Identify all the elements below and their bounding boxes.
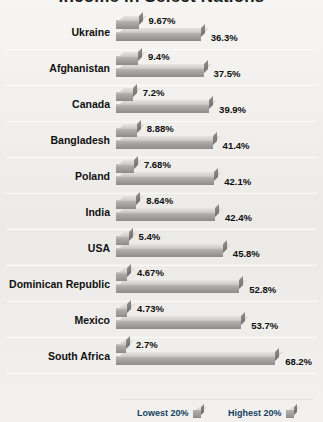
bar-lowest[interactable] bbox=[116, 164, 134, 173]
legend-label-lowest: Lowest 20% bbox=[137, 408, 189, 418]
bar-value-highest: 52.8% bbox=[249, 285, 276, 294]
bar-group: 4.73%53.7% bbox=[116, 302, 323, 338]
bar-lowest[interactable] bbox=[116, 308, 127, 317]
bar-value-highest: 68.2% bbox=[285, 357, 312, 366]
cube-swatch-icon bbox=[193, 407, 204, 418]
bar-highest[interactable] bbox=[116, 248, 223, 257]
bar-value-lowest: 2.7% bbox=[136, 340, 158, 349]
legend-item-highest[interactable]: Highest 20% bbox=[228, 407, 297, 418]
bar-group: 5.4%45.8% bbox=[116, 230, 323, 266]
chart-row: India8.64%42.4% bbox=[0, 194, 323, 230]
chart-row: South Africa2.7%68.2% bbox=[0, 338, 323, 374]
bar-lowest[interactable] bbox=[116, 56, 138, 65]
bar-value-highest: 53.7% bbox=[251, 321, 278, 330]
bar-value-lowest: 9.4% bbox=[148, 52, 170, 61]
category-label: USA bbox=[0, 242, 110, 254]
bar-lowest[interactable] bbox=[116, 272, 127, 281]
category-label: Poland bbox=[0, 170, 110, 182]
category-label: Canada bbox=[0, 98, 110, 110]
chart-container: Income in Select Nations Ukraine9.67%36.… bbox=[0, 0, 323, 422]
bar-highest[interactable] bbox=[116, 356, 275, 365]
bar-value-lowest: 4.73% bbox=[137, 304, 164, 313]
bar-lowest[interactable] bbox=[116, 200, 136, 209]
bar-group: 7.2%39.9% bbox=[116, 86, 323, 122]
category-label: India bbox=[0, 206, 110, 218]
bar-value-lowest: 8.88% bbox=[147, 124, 174, 133]
bar-value-highest: 36.3% bbox=[211, 33, 238, 42]
bar-highest[interactable] bbox=[116, 104, 209, 113]
bar-group: 9.4%37.5% bbox=[116, 50, 323, 86]
bar-value-lowest: 9.67% bbox=[149, 16, 176, 25]
bar-highest[interactable] bbox=[116, 68, 204, 77]
category-label: Dominican Republic bbox=[0, 278, 110, 290]
legend-item-lowest[interactable]: Lowest 20% bbox=[137, 407, 204, 418]
cube-swatch-icon bbox=[286, 407, 297, 418]
bar-value-highest: 42.4% bbox=[225, 213, 252, 222]
bar-lowest[interactable] bbox=[116, 236, 129, 245]
chart-title: Income in Select Nations bbox=[0, 0, 323, 7]
bar-group: 9.67%36.3% bbox=[116, 14, 323, 50]
category-label: Ukraine bbox=[0, 26, 110, 38]
bar-highest[interactable] bbox=[116, 212, 215, 221]
bar-group: 2.7%68.2% bbox=[116, 338, 323, 374]
chart-row: Canada7.2%39.9% bbox=[0, 86, 323, 122]
category-label: Bangladesh bbox=[0, 134, 110, 146]
bar-lowest[interactable] bbox=[116, 344, 126, 353]
bar-value-lowest: 5.4% bbox=[139, 232, 161, 241]
bar-value-lowest: 7.68% bbox=[144, 160, 171, 169]
chart-row: Bangladesh8.88%41.4% bbox=[0, 122, 323, 158]
bar-group: 7.68%42.1% bbox=[116, 158, 323, 194]
bar-lowest[interactable] bbox=[116, 128, 137, 137]
bar-highest[interactable] bbox=[116, 284, 239, 293]
row-separator bbox=[6, 372, 317, 374]
legend-label-highest: Highest 20% bbox=[228, 408, 282, 418]
bar-value-lowest: 7.2% bbox=[143, 88, 165, 97]
bar-group: 8.88%41.4% bbox=[116, 122, 323, 158]
bar-lowest[interactable] bbox=[116, 20, 139, 29]
bar-highest[interactable] bbox=[116, 140, 213, 149]
bar-group: 4.67%52.8% bbox=[116, 266, 323, 302]
bar-highest[interactable] bbox=[116, 320, 241, 329]
bar-value-lowest: 8.64% bbox=[146, 196, 173, 205]
chart-row: Ukraine9.67%36.3% bbox=[0, 14, 323, 50]
bar-value-highest: 45.8% bbox=[233, 249, 260, 258]
bar-group: 8.64%42.4% bbox=[116, 194, 323, 230]
bar-value-highest: 37.5% bbox=[214, 69, 241, 78]
bar-value-highest: 41.4% bbox=[223, 141, 250, 150]
bar-value-highest: 42.1% bbox=[224, 177, 251, 186]
bar-lowest[interactable] bbox=[116, 92, 133, 101]
bar-highest[interactable] bbox=[116, 176, 214, 185]
bar-highest[interactable] bbox=[116, 32, 201, 41]
chart-row: Mexico4.73%53.7% bbox=[0, 302, 323, 338]
category-label: Afghanistan bbox=[0, 62, 110, 74]
chart-legend: Lowest 20% Highest 20% bbox=[0, 398, 323, 420]
category-label: South Africa bbox=[0, 350, 110, 362]
legend-divider bbox=[120, 399, 313, 400]
category-label: Mexico bbox=[0, 314, 110, 326]
chart-row: Poland7.68%42.1% bbox=[0, 158, 323, 194]
chart-row: Dominican Republic4.67%52.8% bbox=[0, 266, 323, 302]
bar-value-highest: 39.9% bbox=[219, 105, 246, 114]
bar-value-lowest: 4.67% bbox=[137, 268, 164, 277]
chart-rows: Ukraine9.67%36.3%Afghanistan9.4%37.5%Can… bbox=[0, 14, 323, 374]
chart-row: Afghanistan9.4%37.5% bbox=[0, 50, 323, 86]
chart-row: USA5.4%45.8% bbox=[0, 230, 323, 266]
